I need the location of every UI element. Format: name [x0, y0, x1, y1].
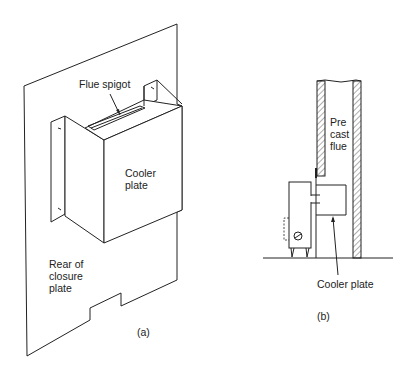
label-flue-spigot: Flue spigot — [79, 78, 130, 90]
arrow-head — [331, 216, 335, 222]
caption-a: (a) — [137, 326, 150, 338]
stove-legs — [291, 248, 309, 257]
cooler-plate-leader — [333, 218, 338, 275]
label-cooler-plate-2: plate — [125, 179, 148, 191]
flue-wall-right — [353, 81, 361, 258]
figure-b: Pre cast flue Cooler plate (b) — [263, 80, 393, 322]
stove-door — [284, 218, 289, 240]
label-rear-1: Rear of — [49, 258, 84, 270]
cooler-plate-box — [316, 185, 346, 215]
caption-b: (b) — [317, 310, 330, 322]
label-cooler-plate-1: Cooler — [125, 167, 156, 179]
label-rear-2: closure — [49, 270, 83, 282]
label-flue-2: cast — [330, 128, 349, 140]
flue-wall-left — [317, 81, 325, 176]
label-flue-3: flue — [330, 140, 347, 152]
label-rear-3: plate — [49, 282, 72, 294]
label-flue-1: Pre — [330, 116, 347, 128]
left-flange — [51, 116, 65, 222]
label-cooler-plate-b: Cooler plate — [317, 278, 374, 290]
spigot-mask — [310, 196, 312, 202]
figure-a: Flue spigot Cooler plate Rear of closure… — [24, 24, 182, 356]
diagram-canvas: Flue spigot Cooler plate Rear of closure… — [0, 0, 417, 371]
